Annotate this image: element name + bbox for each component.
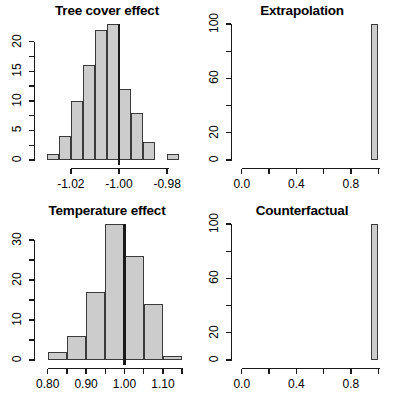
x-axis-label: 0.0 (219, 377, 265, 391)
plot-area-counterfactual: 020601000.00.40.8 (239, 224, 381, 360)
histogram-bar (105, 224, 124, 360)
x-axis-label: 0.4 (273, 377, 319, 391)
histogram-bar (144, 304, 163, 360)
y-axis-tick (226, 23, 231, 24)
y-axis-minor-tick (29, 145, 34, 146)
y-axis-tick (29, 239, 34, 240)
histogram-bar (47, 154, 59, 160)
panel-temperature-effect: Temperature effect 01020300.800.901.001.… (0, 200, 196, 399)
y-axis-minor-tick (29, 339, 34, 340)
y-axis-label: 20 (10, 262, 24, 296)
y-axis-tick (226, 105, 231, 106)
y-axis-tick (226, 359, 231, 360)
plot-area-extrapolation: 020601000.00.40.8 (239, 24, 381, 160)
y-axis-tick (226, 78, 231, 79)
x-axis-label: 1.10 (140, 377, 186, 391)
histogram-bar (163, 356, 182, 360)
x-axis-label: 0.8 (328, 177, 374, 191)
x-axis-tick (296, 369, 297, 374)
histogram-bar (48, 352, 67, 360)
x-axis-tick (181, 369, 182, 374)
x-axis-line (71, 168, 169, 169)
y-axis-label: 100 (207, 6, 221, 40)
x-axis-tick (124, 369, 125, 374)
histogram-bar (167, 154, 179, 160)
x-axis-tick (378, 169, 379, 174)
histogram-bar (83, 65, 95, 160)
y-axis-label: 10 (10, 83, 24, 117)
y-axis-minor-tick (29, 85, 34, 86)
y-axis-tick (226, 159, 231, 160)
x-axis-tick (323, 369, 324, 374)
y-axis-minor-tick (29, 259, 34, 260)
x-axis-label: -1.02 (48, 177, 94, 191)
y-axis-tick (29, 71, 34, 72)
y-axis-tick (29, 279, 34, 280)
x-axis-label: 0.8 (328, 377, 374, 391)
panel-title-temperature-effect: Temperature effect (0, 203, 196, 218)
x-axis-tick (166, 169, 167, 174)
histogram-bar (371, 24, 378, 160)
y-axis-tick (29, 159, 34, 160)
y-axis-minor-tick (29, 299, 34, 300)
histogram-bar (86, 292, 105, 360)
y-axis-tick (226, 223, 231, 224)
histogram-bar (143, 142, 155, 160)
histogram-bar (125, 256, 144, 360)
reference-line (118, 24, 120, 165)
y-axis-label: 60 (207, 260, 221, 294)
x-axis-tick (143, 369, 144, 374)
histogram-bar (71, 101, 83, 160)
y-axis-tick (29, 359, 34, 360)
y-axis-tick (226, 251, 231, 252)
y-axis-label: 20 (207, 115, 221, 149)
x-axis-tick (268, 369, 269, 374)
x-axis-tick (378, 369, 379, 374)
y-axis-label: 5 (10, 112, 24, 146)
x-axis-tick (66, 369, 67, 374)
y-axis-tick (226, 305, 231, 306)
y-axis-label: 20 (10, 24, 24, 58)
x-axis-tick (85, 369, 86, 374)
y-axis-label: 30 (10, 222, 24, 256)
panel-title-tree-cover-effect: Tree cover effect (0, 3, 196, 18)
x-axis-label: -0.98 (144, 177, 190, 191)
y-axis-tick (29, 319, 34, 320)
y-axis-label: 0 (10, 342, 24, 376)
plot-area-temperature-effect: 01020300.800.901.001.10 (42, 224, 184, 360)
y-axis-line (34, 240, 35, 361)
y-axis-tick (29, 130, 34, 131)
y-axis-label: 100 (207, 206, 221, 240)
x-axis-tick (118, 169, 119, 174)
y-axis-label: 20 (207, 315, 221, 349)
panel-title-extrapolation: Extrapolation (197, 3, 393, 18)
plot-area-tree-cover-effect: 05101520-1.02-1.00-0.98 (42, 24, 184, 160)
histogram-bar (131, 113, 143, 160)
x-axis-tick (241, 169, 242, 174)
x-axis-tick (47, 369, 48, 374)
y-axis-tick (226, 332, 231, 333)
y-axis-label: 0 (10, 142, 24, 176)
x-axis-label: -1.00 (96, 177, 142, 191)
y-axis-tick (29, 100, 34, 101)
x-axis-tick (350, 369, 351, 374)
histogram-figure: Tree cover effect 05101520-1.02-1.00-0.9… (0, 0, 393, 399)
y-axis-minor-tick (29, 115, 34, 116)
histogram-bar (371, 224, 378, 360)
panel-counterfactual: Counterfactual 020601000.00.40.8 (197, 200, 393, 399)
histogram-bar (95, 30, 107, 160)
y-axis-tick (226, 51, 231, 52)
y-axis-label: 15 (10, 53, 24, 87)
y-axis-line (231, 224, 232, 361)
panel-title-counterfactual: Counterfactual (197, 203, 393, 218)
y-axis-tick (226, 132, 231, 133)
x-axis-tick (162, 369, 163, 374)
y-axis-tick (29, 41, 34, 42)
x-axis-tick (323, 169, 324, 174)
x-axis-label: 0.0 (219, 177, 265, 191)
histogram-bar (67, 336, 86, 360)
panel-extrapolation: Extrapolation 020601000.00.40.8 (197, 0, 393, 199)
x-axis-line (242, 168, 380, 169)
x-axis-tick (70, 169, 71, 174)
x-axis-tick (350, 169, 351, 174)
